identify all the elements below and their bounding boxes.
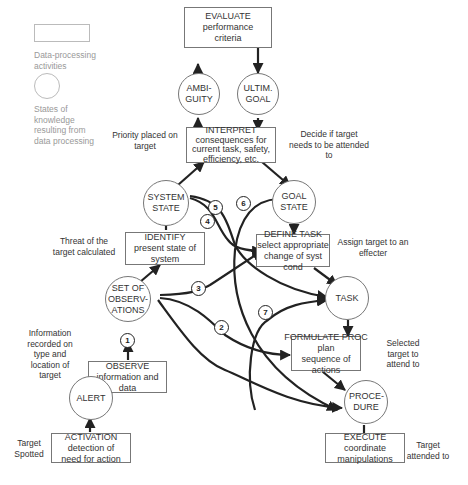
evaluate-desc: performance criteria bbox=[198, 22, 258, 44]
alert-label: ALERT bbox=[77, 393, 106, 404]
set-of-observations-label: SET OF OBSERV- ATIONS bbox=[108, 283, 148, 316]
task-label: TASK bbox=[336, 293, 359, 304]
observe-title: OBSERVE bbox=[106, 361, 149, 372]
ultim-goal-label: ULTIM. GOAL bbox=[242, 83, 274, 105]
shortcut-badge-1: 1 bbox=[120, 333, 135, 348]
execute-desc: coordinate manipulations bbox=[335, 443, 395, 465]
annotation-selected: Selected target to attend to bbox=[375, 338, 431, 370]
identify-desc: present state of system bbox=[132, 243, 198, 265]
state-procedure: PROCE- DURE bbox=[344, 380, 388, 424]
legend-activity-label: Data-processing activities bbox=[34, 50, 114, 71]
state-alert: ALERT bbox=[69, 376, 113, 420]
activity-identify: IDENTIFY present state of system bbox=[125, 232, 205, 265]
shortcut-badge-4: 4 bbox=[200, 214, 215, 229]
shortcut-badge-3: 3 bbox=[191, 281, 206, 296]
shortcut-badge-6: 6 bbox=[236, 196, 251, 211]
execute-title: EXECUTE bbox=[344, 432, 387, 443]
activity-activation: ACTIVATION detection of need for action bbox=[51, 433, 131, 463]
activation-title: ACTIVATION bbox=[65, 432, 118, 443]
shortcut-badge-2: 2 bbox=[214, 320, 229, 335]
shortcut-badge-7: 7 bbox=[258, 305, 273, 320]
activation-desc: detection of need for action bbox=[58, 443, 124, 465]
state-system-state: SYSTEM STATE bbox=[143, 180, 189, 226]
state-ambiguity: AMBI- GUITY bbox=[178, 73, 220, 115]
legend-state-circle bbox=[34, 73, 60, 99]
activity-define-task: DEFINE TASK select appropriate change of… bbox=[256, 234, 330, 267]
formulate-title: FORMULATE PROC bbox=[284, 332, 367, 343]
annotation-information: Information recorded on type and locatio… bbox=[20, 328, 80, 381]
annotation-decide: Decide if target needs to be attended to bbox=[288, 129, 370, 161]
legend-state-label: States of knowledge resulting from data … bbox=[34, 104, 104, 146]
annotation-assign: Assign target to an effecter bbox=[337, 237, 409, 258]
activity-interpret: INTERPRET consequences for current task,… bbox=[186, 127, 276, 163]
state-task: TASK bbox=[325, 276, 369, 320]
legend-activity-box bbox=[34, 24, 90, 42]
annotation-priority: Priority placed on target bbox=[110, 130, 180, 151]
annotation-threat: Threat of the target calculated bbox=[48, 236, 120, 257]
state-goal-state: GOAL STATE bbox=[272, 180, 316, 224]
activity-formulate-proc: FORMULATE PROC plan sequence of actions bbox=[291, 336, 361, 371]
interpret-desc: consequences for current task, safety, e… bbox=[188, 136, 274, 165]
annotation-spotted: Target Spotted bbox=[14, 438, 44, 459]
state-set-of-observations: SET OF OBSERV- ATIONS bbox=[105, 276, 151, 322]
activity-execute: EXECUTE coordinate manipulations bbox=[325, 433, 405, 463]
annotation-attended: Target attended to bbox=[406, 440, 450, 461]
system-state-label: SYSTEM STATE bbox=[146, 192, 186, 214]
identify-title: IDENTIFY bbox=[144, 232, 185, 243]
define-task-desc: select appropriate change of syst cond bbox=[257, 240, 329, 273]
evaluate-title: EVALUATE bbox=[205, 11, 251, 22]
formulate-desc: plan sequence of actions bbox=[298, 343, 354, 376]
shortcut-badge-5: 5 bbox=[208, 200, 223, 215]
goal-state-label: GOAL STATE bbox=[278, 191, 310, 213]
ambiguity-label: AMBI- GUITY bbox=[183, 83, 215, 105]
state-ultim-goal: ULTIM. GOAL bbox=[237, 73, 279, 115]
define-task-title: DEFINE TASK bbox=[264, 229, 322, 240]
activity-evaluate: EVALUATE performance criteria bbox=[184, 7, 272, 48]
procedure-label: PROCE- DURE bbox=[349, 391, 383, 413]
